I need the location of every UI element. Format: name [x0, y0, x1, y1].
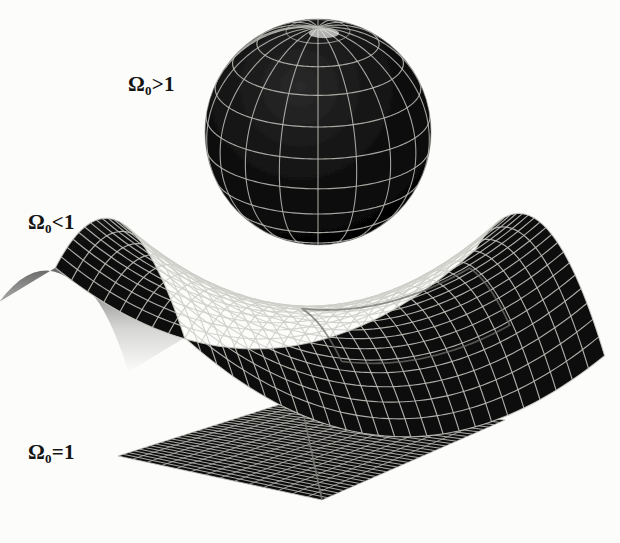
geometry-scene: [0, 0, 620, 543]
omega-subscript-open: 0: [45, 221, 52, 236]
omega-subscript-flat: 0: [45, 451, 52, 466]
omega-subscript-closed: 0: [145, 83, 152, 98]
closed-universe-sphere: [205, 19, 431, 245]
cosmology-geometry-figure: Ω0>1 Ω0<1 Ω0=1: [0, 0, 620, 543]
omega-symbol-flat: Ω: [28, 440, 45, 464]
label-omega-greater-than-one: Ω0>1: [128, 74, 175, 97]
open-universe-saddle: [0, 213, 605, 436]
omega-symbol-open: Ω: [28, 210, 45, 234]
omega-symbol-closed: Ω: [128, 72, 145, 96]
relation-flat: =1: [52, 440, 75, 464]
label-omega-less-than-one: Ω0<1: [28, 212, 75, 235]
relation-closed: >1: [152, 72, 175, 96]
label-omega-equals-one: Ω0=1: [28, 442, 75, 465]
relation-open: <1: [52, 210, 75, 234]
